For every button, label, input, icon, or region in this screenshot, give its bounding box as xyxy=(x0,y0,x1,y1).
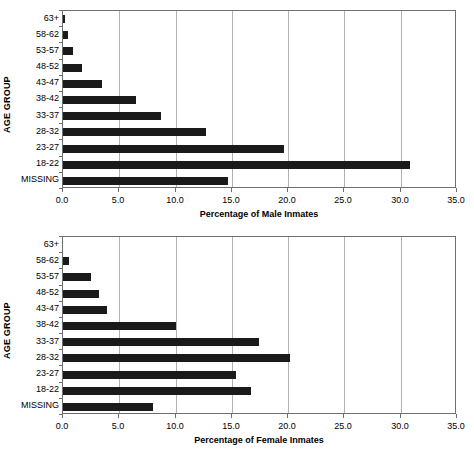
x-axis-tick-label: 10.0 xyxy=(155,420,195,432)
x-tick-mark xyxy=(343,414,344,418)
y-tick-mark xyxy=(59,123,62,124)
x-tick-mark xyxy=(118,414,119,418)
bar-row xyxy=(63,43,455,59)
x-axis-tick-label: 5.0 xyxy=(98,420,138,432)
bar-row xyxy=(63,140,455,156)
y-axis-tick-label: MISSING xyxy=(8,398,59,414)
y-tick-mark xyxy=(59,317,62,318)
y-tick-mark xyxy=(59,139,62,140)
bar xyxy=(63,387,251,395)
y-axis-tick-label: 23-27 xyxy=(8,139,59,155)
y-tick-mark xyxy=(59,382,62,383)
x-tick-mark xyxy=(118,188,119,192)
bar-row xyxy=(63,399,455,414)
y-tick-mark xyxy=(59,75,62,76)
y-axis-tick-label: 58-62 xyxy=(8,26,59,42)
bar-row xyxy=(63,318,455,334)
y-tick-mark xyxy=(59,156,62,157)
y-axis-tick-label: 43-47 xyxy=(8,301,59,317)
bar-row xyxy=(63,124,455,140)
x-tick-mark xyxy=(343,188,344,192)
bar xyxy=(63,96,136,104)
bar-row xyxy=(63,269,455,285)
y-axis-tick-label: 23-27 xyxy=(8,365,59,381)
y-axis-tick-label: 63+ xyxy=(8,236,59,252)
x-axis-tick-label: 25.0 xyxy=(323,194,363,206)
bar xyxy=(63,15,65,23)
y-axis-tick-labels: 63+58-6253-5748-5243-4738-4233-3728-3223… xyxy=(8,10,59,188)
y-tick-mark xyxy=(59,349,62,350)
bar-row xyxy=(63,383,455,399)
y-axis-tick-label: 48-52 xyxy=(8,59,59,75)
x-tick-mark xyxy=(400,188,401,192)
bar xyxy=(63,64,82,72)
y-axis-tick-label: 18-22 xyxy=(8,382,59,398)
bar-row xyxy=(63,366,455,382)
y-tick-mark xyxy=(59,10,62,11)
bar-row xyxy=(63,76,455,92)
bar xyxy=(63,306,107,314)
x-tick-mark xyxy=(456,414,457,418)
x-tick-mark xyxy=(175,188,176,192)
bar xyxy=(63,80,102,88)
x-tick-mark xyxy=(231,414,232,418)
y-axis-tick-label: 33-37 xyxy=(8,107,59,123)
bar-row xyxy=(63,237,455,253)
x-axis-tick-label: 5.0 xyxy=(98,194,138,206)
bar-row xyxy=(63,92,455,108)
chart-male-inmates: AGE GROUP63+58-6253-5748-5243-4738-4233-… xyxy=(0,0,474,226)
x-axis-tick-label: 0.0 xyxy=(42,194,82,206)
x-axis-tick-label: 15.0 xyxy=(211,194,251,206)
y-axis-tick-label: 33-37 xyxy=(8,333,59,349)
plot-area xyxy=(62,236,456,414)
bar xyxy=(63,128,206,136)
x-axis-tick-label: 20.0 xyxy=(267,194,307,206)
x-tick-mark xyxy=(456,188,457,192)
bar xyxy=(63,31,68,39)
x-axis-title: Percentage of Male Inmates xyxy=(62,210,456,219)
y-axis-tick-label: MISSING xyxy=(8,172,59,188)
y-axis-tick-label: 38-42 xyxy=(8,317,59,333)
y-tick-mark xyxy=(59,301,62,302)
x-tick-mark xyxy=(287,414,288,418)
y-tick-mark xyxy=(59,91,62,92)
chart-female-inmates: AGE GROUP63+58-6253-5748-5243-4738-4233-… xyxy=(0,226,474,452)
bar xyxy=(63,338,259,346)
x-tick-mark xyxy=(231,188,232,192)
bar xyxy=(63,273,91,281)
x-axis-tick-label: 35.0 xyxy=(436,194,474,206)
x-tick-mark xyxy=(62,188,63,192)
y-tick-mark xyxy=(59,285,62,286)
bar xyxy=(63,112,161,120)
bar xyxy=(63,322,176,330)
x-axis-tick-label: 30.0 xyxy=(380,194,420,206)
y-tick-mark xyxy=(59,172,62,173)
y-axis-tick-label: 53-57 xyxy=(8,268,59,284)
y-axis-tick-label: 18-22 xyxy=(8,156,59,172)
bar xyxy=(63,47,73,55)
x-axis-tick-label: 35.0 xyxy=(436,420,474,432)
bar-row xyxy=(63,157,455,173)
y-tick-mark xyxy=(59,26,62,27)
bar xyxy=(63,290,99,298)
bar-row xyxy=(63,27,455,43)
x-axis-tick-labels: 0.05.010.015.020.025.030.035.0 xyxy=(0,420,474,432)
y-tick-mark xyxy=(59,268,62,269)
bar xyxy=(63,145,284,153)
x-axis-tick-label: 25.0 xyxy=(323,420,363,432)
bar-row xyxy=(63,350,455,366)
y-tick-mark xyxy=(59,333,62,334)
y-tick-mark xyxy=(59,252,62,253)
x-tick-mark xyxy=(62,414,63,418)
bar xyxy=(63,177,228,185)
y-axis-tick-label: 38-42 xyxy=(8,91,59,107)
y-axis-tick-label: 28-32 xyxy=(8,349,59,365)
y-tick-mark xyxy=(59,236,62,237)
bar-row xyxy=(63,253,455,269)
x-axis-tick-label: 10.0 xyxy=(155,194,195,206)
bar-row xyxy=(63,108,455,124)
x-axis-tick-label: 0.0 xyxy=(42,420,82,432)
bar xyxy=(63,257,69,265)
x-axis-tick-label: 15.0 xyxy=(211,420,251,432)
x-axis-tick-label: 30.0 xyxy=(380,420,420,432)
